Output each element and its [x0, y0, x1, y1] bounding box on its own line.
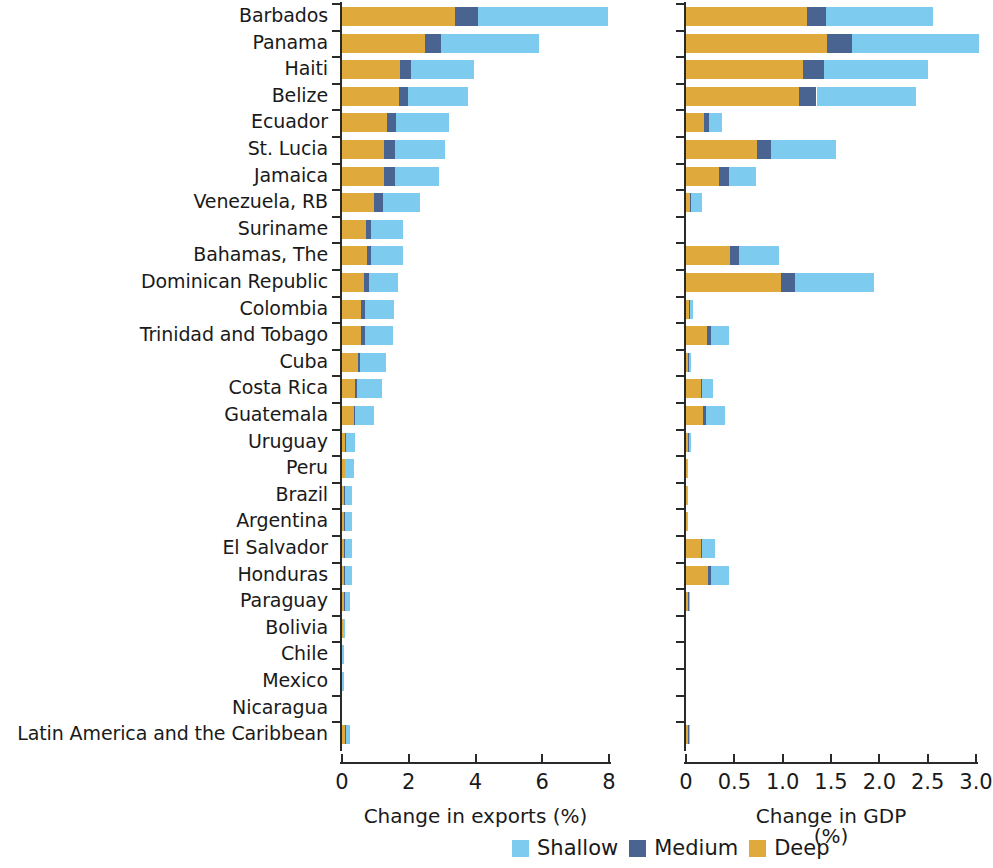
x-axis-tick: [782, 754, 784, 763]
bar-segment-deep: [686, 273, 781, 292]
category-tick: [676, 216, 685, 218]
bar-segment-shallow: [706, 406, 724, 425]
legend-swatch-shallow-icon: [512, 840, 529, 857]
bar-segment-deep: [686, 406, 703, 425]
bar-segment-shallow: [711, 326, 729, 345]
category-tick: [676, 508, 685, 510]
category-tick: [676, 482, 685, 484]
bar-segment-shallow: [709, 113, 722, 132]
legend-swatch-medium-icon: [629, 840, 646, 857]
bar-segment-deep: [686, 7, 807, 26]
bar-segment-shallow: [826, 7, 933, 26]
bar-segment-medium: [719, 167, 729, 186]
category-tick: [676, 375, 685, 377]
legend-label: Medium: [654, 838, 738, 859]
bar-segment-deep: [686, 326, 707, 345]
x-axis-tick: [927, 754, 929, 763]
legend-swatch-deep-icon: [749, 840, 766, 857]
bar-segment-medium: [803, 60, 824, 79]
category-tick: [676, 136, 685, 138]
bar-segment-deep: [686, 167, 719, 186]
category-tick: [676, 535, 685, 537]
category-tick: [676, 641, 685, 643]
bar-segment-deep: [686, 113, 704, 132]
stacked-bar: [686, 725, 690, 744]
stacked-bar: [686, 406, 725, 425]
chart-legend: ShallowMediumDeep: [512, 838, 830, 859]
bar-segment-shallow: [739, 246, 779, 265]
bar-segment-shallow: [690, 300, 693, 319]
category-tick: [676, 30, 685, 32]
category-tick: [676, 402, 685, 404]
bar-segment-medium: [827, 34, 852, 53]
stacked-bar: [686, 220, 687, 239]
legend-label: Deep: [774, 838, 829, 859]
stacked-bar: [686, 433, 691, 452]
stacked-bar: [686, 300, 693, 319]
bar-segment-shallow: [689, 592, 691, 611]
legend-item-shallow[interactable]: Shallow: [512, 838, 618, 859]
bar-segment-deep: [686, 34, 827, 53]
x-axis-tick: [733, 754, 735, 763]
bar-segment-medium: [799, 87, 816, 106]
legend-item-deep[interactable]: Deep: [749, 838, 829, 859]
x-axis-tick: [685, 754, 687, 763]
category-tick: [676, 429, 685, 431]
stacked-bar: [686, 193, 702, 212]
x-axis-tick: [830, 754, 832, 763]
bar-segment-shallow: [795, 273, 874, 292]
x-axis-tick: [878, 754, 880, 763]
category-tick: [676, 163, 685, 165]
stacked-bar: [686, 167, 756, 186]
x-axis-tick: [975, 754, 977, 763]
x-axis-tick-label: 1.5: [814, 772, 847, 793]
category-tick: [676, 349, 685, 351]
category-tick: [676, 668, 685, 670]
bar-segment-shallow: [771, 140, 836, 159]
bar-segment-shallow: [824, 60, 927, 79]
x-axis-tick-label: 3.0: [959, 772, 992, 793]
bar-segment-deep: [686, 87, 799, 106]
category-tick: [676, 562, 685, 564]
x-axis-tick-label: 0: [679, 772, 692, 793]
bar-segment-deep: [686, 60, 803, 79]
bar-segment-shallow: [817, 87, 917, 106]
bar-segment-shallow: [689, 725, 691, 744]
bar-segment-shallow: [689, 353, 691, 372]
stacked-bar: [686, 512, 688, 531]
stacked-bar: [686, 379, 713, 398]
category-tick: [676, 269, 685, 271]
category-tick: [676, 56, 685, 58]
stacked-bar: [686, 326, 730, 345]
category-tick: [676, 189, 685, 191]
bar-segment-shallow: [711, 566, 728, 585]
stacked-bar: [686, 34, 979, 53]
bar-segment-deep: [686, 246, 730, 265]
stacked-bar: [686, 566, 729, 585]
bar-segment-deep: [686, 140, 757, 159]
stacked-bar: [686, 459, 688, 478]
stacked-bar: [686, 140, 836, 159]
category-tick: [676, 695, 685, 697]
category-tick: [676, 615, 685, 617]
stacked-bar: [686, 87, 916, 106]
stacked-bar: [686, 113, 722, 132]
stacked-bar: [686, 246, 779, 265]
category-tick: [676, 721, 685, 723]
bar-segment-shallow: [702, 379, 713, 398]
bar-segment-shallow: [687, 512, 689, 531]
chart-panel-gdp: 00.51.01.52.02.53.0Change in GDP (%): [0, 0, 989, 822]
stacked-bar: [686, 353, 691, 372]
stacked-bar: [686, 592, 690, 611]
x-axis-tick-label: 2.5: [911, 772, 944, 793]
bar-segment-shallow: [852, 34, 979, 53]
stacked-bar: [686, 672, 687, 691]
bar-segment-shallow: [702, 539, 715, 558]
bar-segment-shallow: [729, 167, 756, 186]
bar-segment-medium: [807, 7, 826, 26]
category-tick: [676, 322, 685, 324]
bar-segment-deep: [686, 566, 708, 585]
stacked-bar: [686, 699, 687, 718]
legend-item-medium[interactable]: Medium: [629, 838, 738, 859]
